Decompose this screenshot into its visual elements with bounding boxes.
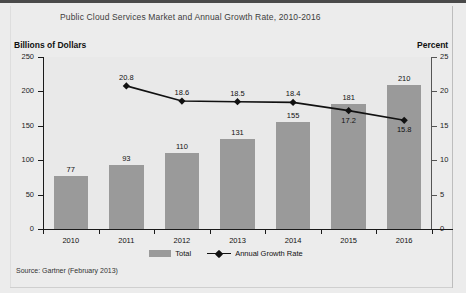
- line-value-label: 18.4: [273, 89, 313, 98]
- line-point-marker: [123, 82, 130, 89]
- x-axis-tick-mark: [265, 230, 266, 234]
- y-axis-left-tick-label: 0: [8, 224, 34, 233]
- x-axis-tick-label: 2013: [218, 236, 258, 245]
- line-point-marker: [178, 97, 185, 104]
- frame-bottom-border: [10, 287, 452, 288]
- line-value-label: 17.2: [329, 116, 369, 125]
- legend-swatch-icon: [149, 250, 171, 257]
- y-axis-right-tick-mark: [432, 91, 437, 92]
- x-axis-tick-label: 2016: [384, 236, 424, 245]
- x-axis-tick-mark: [432, 230, 433, 234]
- y-axis-left-tick-label: 50: [8, 190, 34, 199]
- legend-item-total: Total: [149, 249, 191, 258]
- x-axis-tick-label: 2010: [51, 236, 91, 245]
- y-axis-left-tick-label: 250: [8, 52, 34, 61]
- y-axis-right-tick-label: 25: [440, 52, 466, 61]
- y-axis-title-left: Billions of Dollars: [14, 40, 86, 50]
- line-value-label: 18.5: [218, 89, 258, 98]
- frame-left-border: [10, 6, 11, 288]
- axis-line-left: [43, 57, 44, 230]
- x-axis-tick-mark: [376, 230, 377, 234]
- y-axis-right-tick-label: 5: [440, 190, 466, 199]
- line-value-label: 18.6: [162, 88, 202, 97]
- line-value-label: 15.8: [384, 125, 424, 134]
- y-axis-left-tick-label: 100: [8, 155, 34, 164]
- chart-legend: Total Annual Growth Rate: [0, 249, 452, 258]
- legend-label-total: Total: [175, 249, 191, 258]
- y-axis-right-tick-label: 20: [440, 86, 466, 95]
- x-axis-tick-mark: [210, 230, 211, 234]
- axis-line-bottom: [43, 229, 453, 230]
- growth-rate-line-series: [43, 57, 432, 229]
- source-note: Source: Gartner (February 2013): [16, 267, 118, 274]
- frame-right-border: [452, 6, 453, 288]
- y-axis-right-tick-label: 15: [440, 121, 466, 130]
- y-axis-right-tick-label: 10: [440, 155, 466, 164]
- y-axis-right-tick-mark: [432, 57, 437, 58]
- y-axis-left-tick-label: 150: [8, 121, 34, 130]
- legend-line-marker-icon: [207, 250, 231, 257]
- y-axis-right-tick-mark: [432, 126, 437, 127]
- x-axis-tick-mark: [321, 230, 322, 234]
- line-point-marker: [345, 107, 352, 114]
- x-axis-tick-mark: [43, 230, 44, 234]
- y-axis-left-tick-label: 200: [8, 86, 34, 95]
- legend-item-growth-rate: Annual Growth Rate: [207, 249, 303, 258]
- chart-figure: Public Cloud Services Market and Annual …: [0, 0, 466, 293]
- x-axis-tick-label: 2011: [106, 236, 146, 245]
- x-axis-tick-label: 2014: [273, 236, 313, 245]
- y-axis-right-tick-mark: [432, 195, 437, 196]
- x-axis-tick-label: 2012: [162, 236, 202, 245]
- chart-title: Public Cloud Services Market and Annual …: [60, 12, 321, 22]
- axis-line-right: [431, 57, 432, 230]
- x-axis-tick-label: 2015: [329, 236, 369, 245]
- line-point-marker: [401, 117, 408, 124]
- y-axis-right-tick-mark: [432, 160, 437, 161]
- y-axis-title-right: Percent: [417, 40, 448, 50]
- line-point-marker: [289, 99, 296, 106]
- top-rule: [0, 0, 466, 3]
- line-value-label: 20.8: [106, 73, 146, 82]
- legend-label-growth-rate: Annual Growth Rate: [235, 249, 303, 258]
- x-axis-tick-mark: [99, 230, 100, 234]
- x-axis-tick-mark: [154, 230, 155, 234]
- line-point-marker: [234, 98, 241, 105]
